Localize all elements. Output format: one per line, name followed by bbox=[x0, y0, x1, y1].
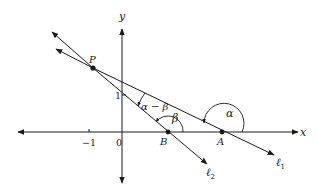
tick-label-neg-one: −1 bbox=[82, 137, 96, 148]
point-P bbox=[90, 65, 95, 70]
line-l2-label: ℓ2 bbox=[206, 166, 215, 181]
x-axis bbox=[18, 129, 298, 132]
y-axis-label: y bbox=[118, 10, 126, 23]
point-B bbox=[166, 130, 171, 135]
angle-alpha-arc bbox=[204, 103, 244, 132]
tick-label-y-one: 1 bbox=[115, 90, 121, 101]
angle-alpha-minus-beta-label: α − β bbox=[141, 101, 168, 112]
tick-label-origin: 0 bbox=[116, 137, 122, 148]
point-A-label: A bbox=[216, 136, 224, 147]
line-l2-lower bbox=[93, 68, 207, 164]
line-l1-label: ℓ1 bbox=[276, 156, 285, 171]
angle-alpha-label: α bbox=[226, 107, 234, 120]
diagram-canvas: y x P B A −1 0 1 α β α − β ℓ1 ℓ2 bbox=[0, 0, 317, 194]
x-axis-label: x bbox=[300, 126, 307, 139]
angle-beta-label: β bbox=[171, 112, 178, 125]
point-B-label: B bbox=[159, 136, 167, 147]
point-P-label: P bbox=[88, 54, 96, 65]
y-axis bbox=[122, 29, 126, 183]
point-A bbox=[220, 130, 225, 135]
